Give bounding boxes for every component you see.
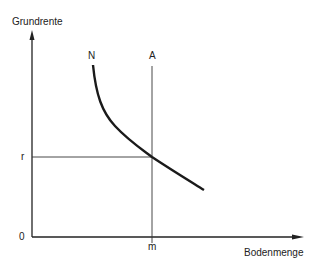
x-axis-label: Bodenmenge [244, 248, 304, 258]
m-label: m [148, 242, 156, 252]
demand-curve-N [93, 65, 204, 190]
land-rent-diagram: Grundrente Bodenmenge 0 r m N A [0, 0, 320, 270]
origin-label: 0 [19, 232, 25, 242]
y-axis-label: Grundrente [12, 17, 63, 27]
curve-N-label: N [88, 51, 95, 61]
line-A-label: A [149, 51, 156, 61]
x-axis-arrow-icon [292, 235, 304, 240]
y-axis-arrow-icon [30, 30, 35, 40]
r-label: r [21, 152, 24, 162]
diagram-canvas [0, 0, 320, 270]
